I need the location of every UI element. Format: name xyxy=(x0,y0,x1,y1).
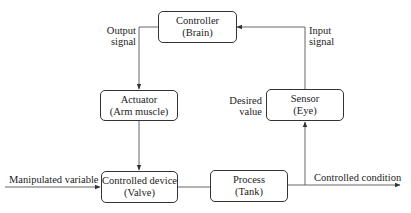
process-title: Process xyxy=(233,174,265,186)
actuator-title: Actuator xyxy=(121,94,158,106)
controller-block: Controller (Brain) xyxy=(158,11,237,43)
controlled-device-subtitle: (Valve) xyxy=(124,187,155,199)
process-subtitle: (Tank) xyxy=(235,186,263,198)
input-signal-label: Input signal xyxy=(309,25,334,47)
controller-title: Controller xyxy=(176,15,219,27)
sensor-block: Sensor (Eye) xyxy=(266,89,344,121)
process-block: Process (Tank) xyxy=(210,170,288,202)
input-signal-line xyxy=(237,27,305,89)
controlled-condition-label: Controlled condition xyxy=(314,172,401,183)
controlled-device-title: Controlled device xyxy=(102,175,177,187)
output-signal-label: Output signal xyxy=(104,25,136,47)
output-signal-line xyxy=(139,27,158,89)
sensor-subtitle: (Eye) xyxy=(293,105,316,117)
actuator-block: Actuator (Arm muscle) xyxy=(100,90,178,121)
desired-value-label: Desired value xyxy=(226,95,262,117)
actuator-subtitle: (Arm muscle) xyxy=(110,106,169,118)
sensor-title: Sensor xyxy=(291,93,320,105)
controller-subtitle: (Brain) xyxy=(182,27,212,39)
manipulated-variable-label: Manipulated variable xyxy=(9,174,99,185)
controlled-device-block: Controlled device (Valve) xyxy=(101,171,178,203)
